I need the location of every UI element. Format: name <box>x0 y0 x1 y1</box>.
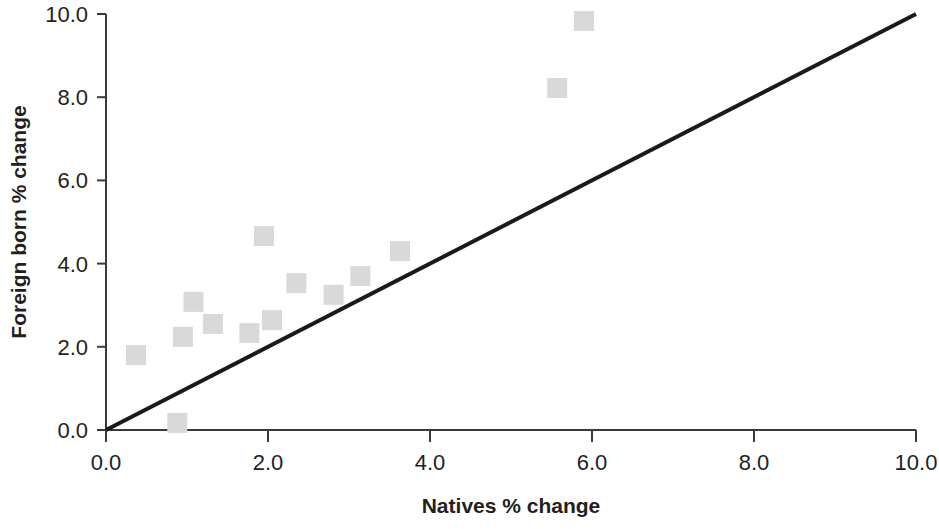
data-point-marker <box>262 310 282 330</box>
data-point-marker <box>254 226 274 246</box>
data-point-group <box>126 11 594 433</box>
y-axis-title: Foreign born % change <box>7 105 30 338</box>
y-tick-label: 8.0 <box>57 85 88 110</box>
x-axis-title: Natives % change <box>422 494 601 517</box>
y-tick-label: 6.0 <box>57 168 88 193</box>
x-tick-label: 2.0 <box>253 450 284 475</box>
y-tick-label: 4.0 <box>57 252 88 277</box>
data-point-marker <box>286 273 306 293</box>
data-point-marker <box>183 292 203 312</box>
y-axis-ticks <box>97 14 106 430</box>
scatter-chart-figure: 0.0 2.0 4.0 6.0 8.0 10.0 0.0 2.0 4.0 6.0… <box>0 0 939 529</box>
data-point-marker <box>350 266 370 286</box>
x-tick-label: 10.0 <box>895 450 938 475</box>
data-point-marker <box>547 78 567 98</box>
data-point-marker <box>167 413 187 433</box>
equality-reference-line <box>106 14 916 430</box>
x-axis-ticks <box>106 430 916 442</box>
data-point-marker <box>126 345 146 365</box>
data-point-marker <box>574 11 594 31</box>
plot-canvas: 0.0 2.0 4.0 6.0 8.0 10.0 0.0 2.0 4.0 6.0… <box>0 0 939 529</box>
data-point-marker <box>173 327 193 347</box>
data-point-marker <box>239 323 259 343</box>
data-point-marker <box>203 314 223 334</box>
y-tick-label: 2.0 <box>57 335 88 360</box>
x-tick-label: 8.0 <box>739 450 770 475</box>
data-point-marker <box>324 285 344 305</box>
x-tick-label: 6.0 <box>577 450 608 475</box>
x-tick-labels: 0.0 2.0 4.0 6.0 8.0 10.0 <box>91 450 938 475</box>
x-tick-label: 0.0 <box>91 450 122 475</box>
y-tick-labels: 0.0 2.0 4.0 6.0 8.0 10.0 <box>45 2 88 443</box>
x-tick-label: 4.0 <box>415 450 446 475</box>
y-tick-label: 10.0 <box>45 2 88 27</box>
data-point-marker <box>390 241 410 261</box>
y-tick-label: 0.0 <box>57 418 88 443</box>
